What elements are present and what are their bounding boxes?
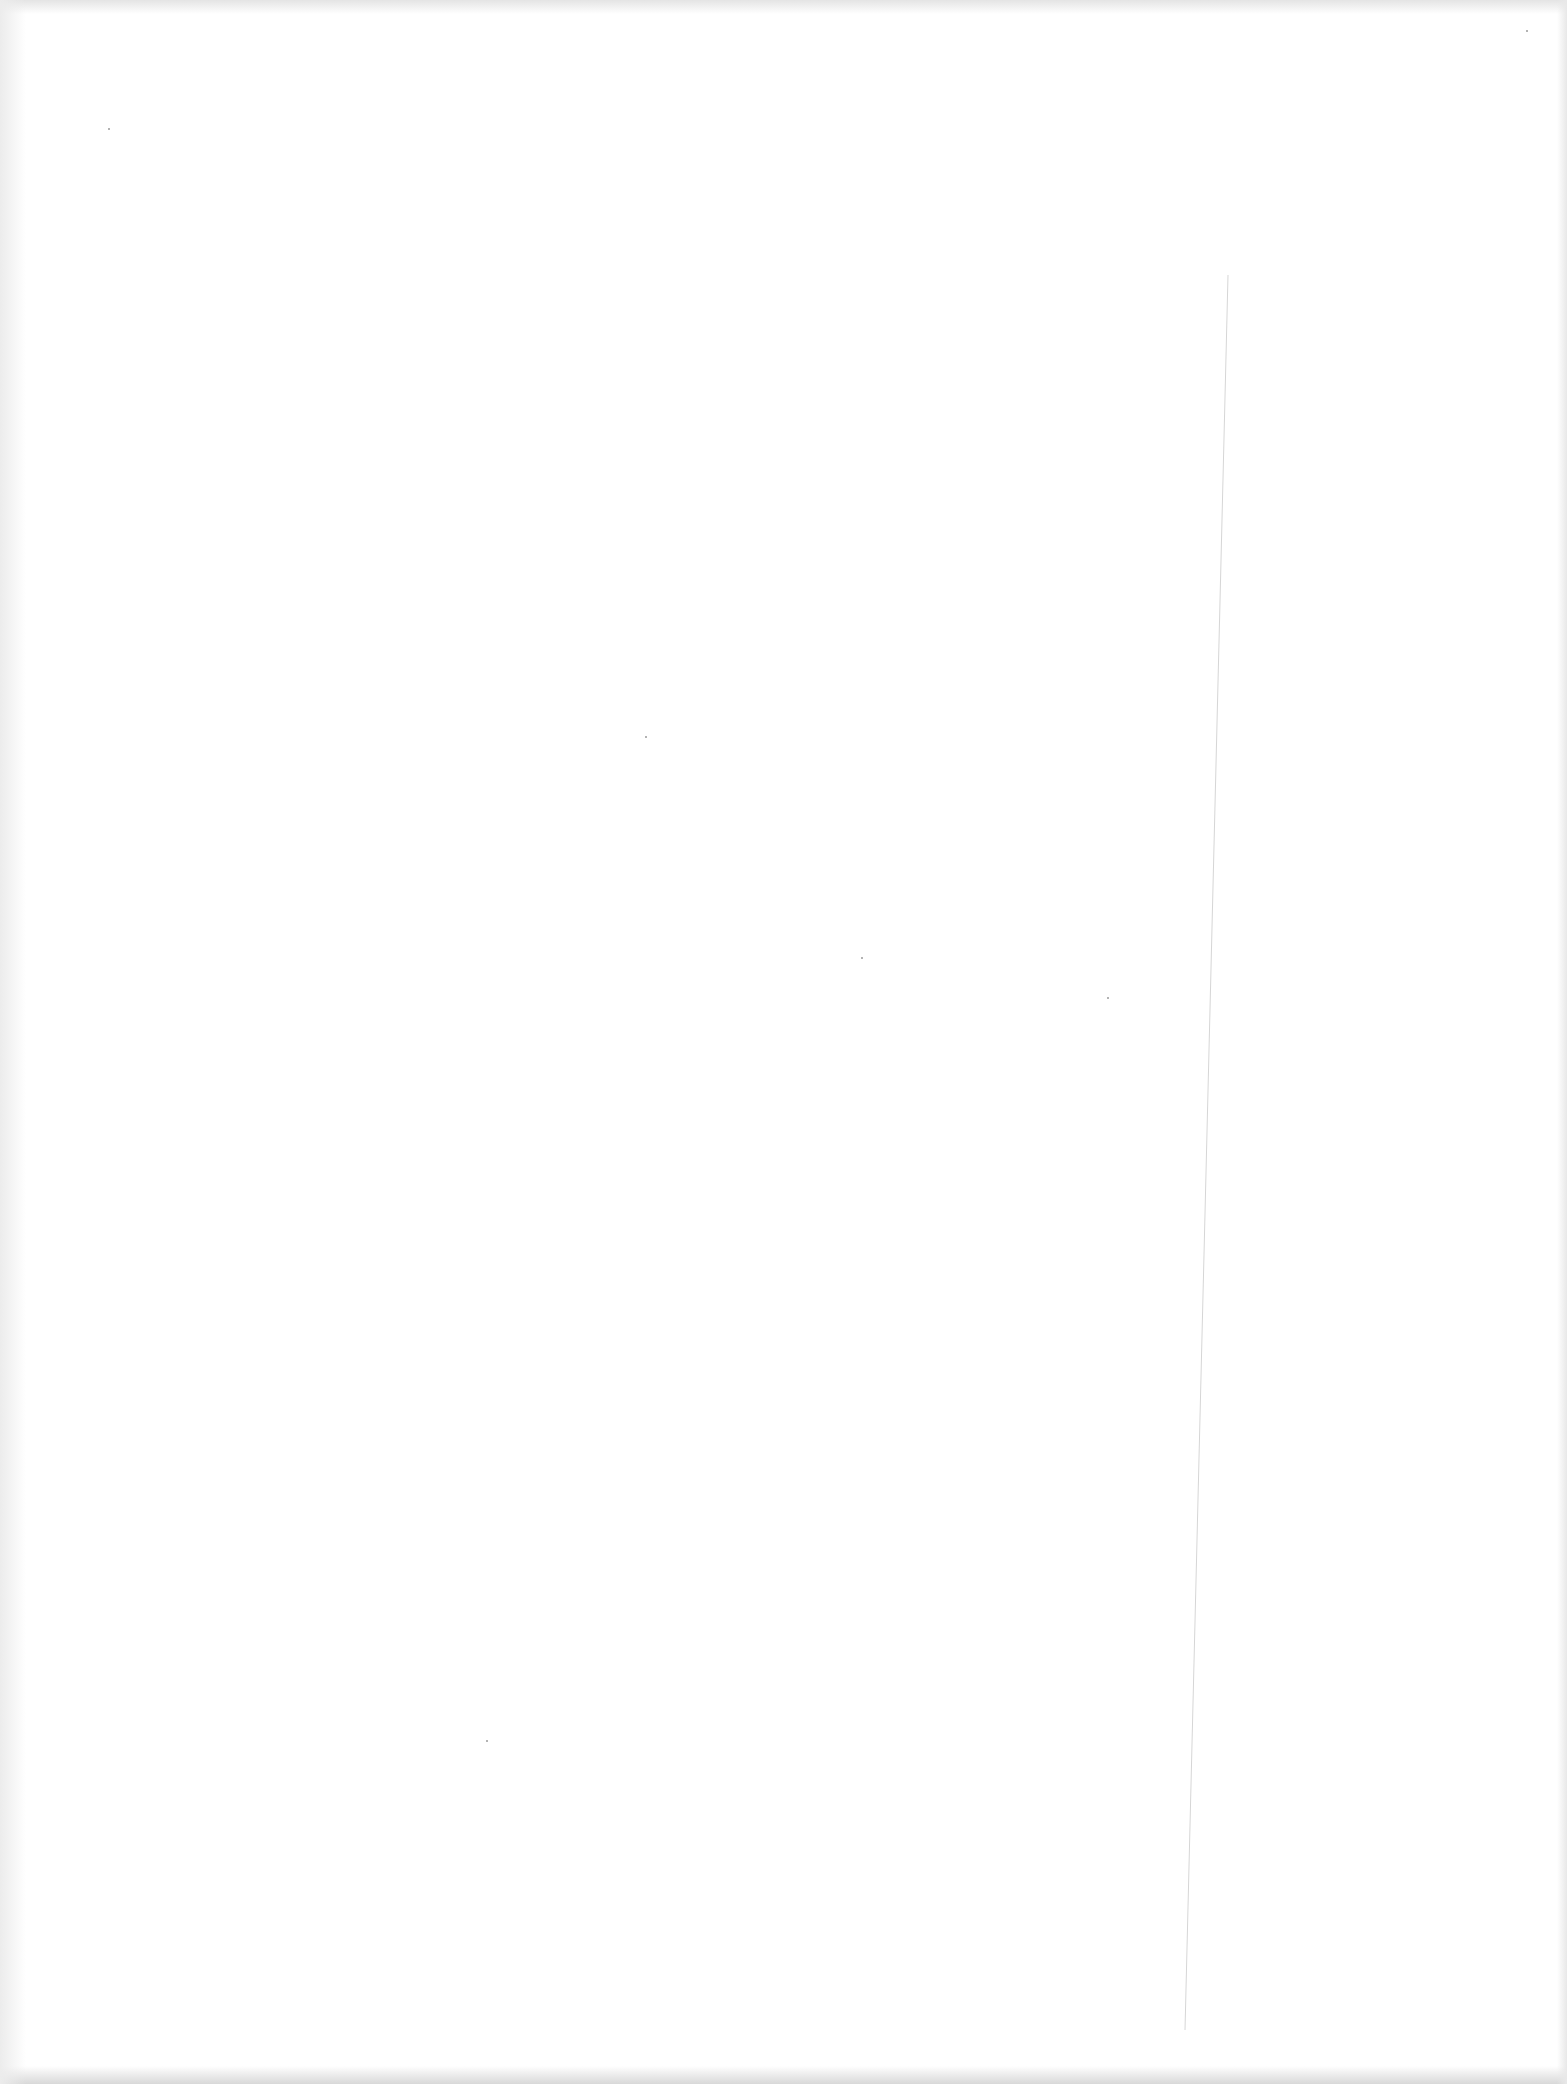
- scan-speck: [645, 736, 647, 738]
- scan-edge-bottom: [0, 2066, 1567, 2084]
- scan-edge-right: [1557, 0, 1567, 2084]
- scan-edge-top: [0, 0, 1567, 14]
- blank-page: [0, 0, 1567, 2084]
- scan-speck: [108, 128, 110, 130]
- scan-speck: [1107, 997, 1109, 999]
- scan-speck: [486, 1740, 488, 1742]
- faint-vertical-line: [0, 0, 1567, 2084]
- scan-speck: [861, 957, 863, 959]
- scan-edge-left: [0, 0, 26, 2084]
- scan-speck: [1526, 30, 1528, 32]
